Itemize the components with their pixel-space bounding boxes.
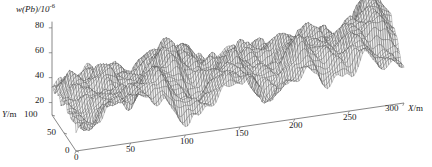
x-tick-label-300: 300 [385,104,399,113]
surface-plot-figure: w(Pb)/10-6 80 60 40 20 Y/m 100 50 0 0 50… [0,0,432,167]
z-tick-label-60: 60 [22,46,44,55]
x-axis-title-unit: /m [414,103,424,113]
x-tick-label-250: 250 [343,113,357,122]
z-tick-label-20: 20 [22,96,44,105]
x-tick-label-50: 50 [126,145,135,154]
x-axis-title: X/m [408,104,423,113]
y-axis-title-unit: /m [7,109,17,119]
z-tick-label-80: 80 [22,21,44,30]
z-axis-title: w(Pb)/10-6 [16,3,55,14]
y-tick-label-100: 100 [24,110,38,119]
x-tick-label-100: 100 [180,137,194,146]
z-axis-title-variable: w(Pb)/10 [16,4,50,14]
surface-plot-canvas [0,0,432,167]
x-tick-label-200: 200 [289,121,303,130]
z-axis-title-exponent: -6 [50,2,55,9]
z-tick-label-40: 40 [22,71,44,80]
y-tick-label-0: 0 [65,146,70,155]
y-tick-label-50: 50 [47,128,56,137]
x-tick-label-150: 150 [235,129,249,138]
x-tick-label-0: 0 [74,153,79,162]
y-axis-title: Y/m [2,110,17,119]
